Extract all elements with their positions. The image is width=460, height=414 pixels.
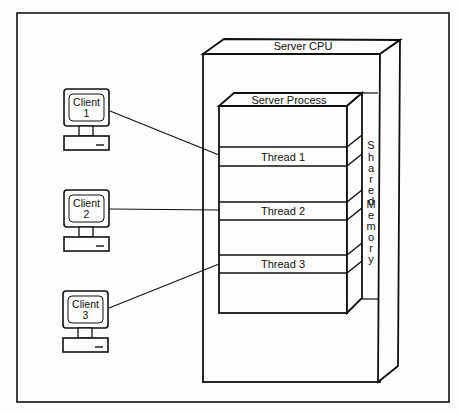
server-process-label: Server Process xyxy=(251,94,327,106)
client-2-computer-icon: Client 2 xyxy=(64,190,109,251)
thread-2-label: Thread 2 xyxy=(261,205,305,217)
client-1-computer-icon: Client 1 xyxy=(64,89,109,150)
thread-1-label: Thread 1 xyxy=(261,151,305,163)
client-2-number: 2 xyxy=(84,208,90,220)
client-3-number: 3 xyxy=(83,309,89,321)
client-1-number: 1 xyxy=(84,107,90,119)
server-cpu-label: Server CPU xyxy=(274,40,333,52)
server-process-box: Server Process xyxy=(219,93,362,313)
client-3-computer-icon: Client 3 xyxy=(63,291,108,352)
svg-text:y: y xyxy=(368,253,374,265)
diagram-canvas: Server CPU S h a r e d M e m o r y Serve… xyxy=(0,0,460,414)
svg-text:S: S xyxy=(367,139,374,151)
thread-3-label: Thread 3 xyxy=(261,258,305,270)
